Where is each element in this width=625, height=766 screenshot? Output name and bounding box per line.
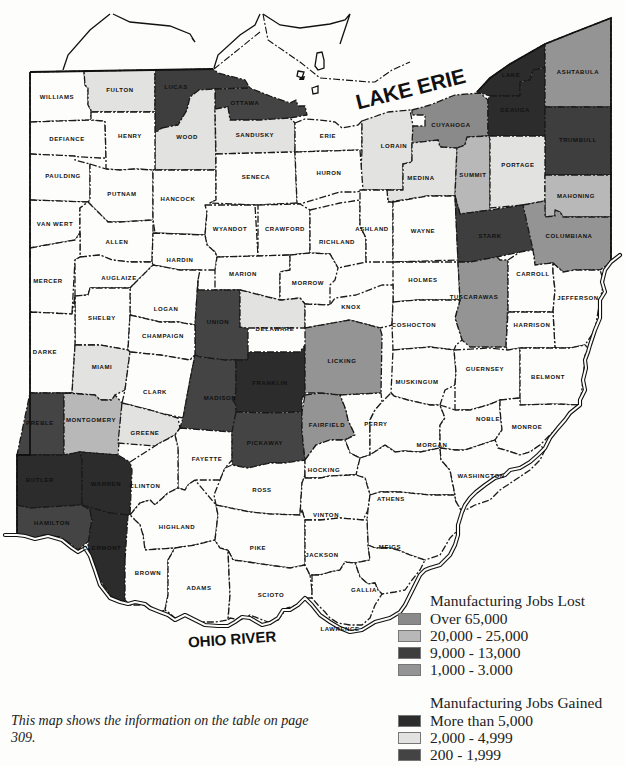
county-tuscarawas: [455, 257, 508, 347]
county-label-henry: HENRY: [118, 133, 142, 139]
county-label-pickaway: PICKAWAY: [247, 440, 283, 446]
county-label-wayne: WAYNE: [411, 228, 435, 234]
county-montgomery: [64, 393, 122, 455]
county-adams: [165, 540, 230, 622]
county-label-vinton: VINTON: [313, 512, 339, 518]
county-label-holmes: HOLMES: [408, 277, 437, 283]
county-label-stark: STARK: [478, 233, 501, 239]
legend-item: 20,000 - 25,000: [398, 627, 625, 644]
county-jefferson: [553, 263, 604, 348]
legend-label: More than 5,000: [430, 712, 533, 730]
county-label-trumbull: TRUMBULL: [559, 137, 597, 143]
county-label-lorain: LORAIN: [381, 143, 408, 149]
county-label-fulton: FULTON: [106, 87, 133, 93]
legend-label: 200 - 1,999: [430, 746, 501, 764]
county-label-athens: ATHENS: [377, 496, 405, 502]
legend-swatch: [398, 749, 421, 761]
county-label-lucas: LUCAS: [164, 84, 188, 90]
ohio-river-label: OHIO RIVER: [187, 627, 276, 650]
county-label-cuyahoga: CUYAHOGA: [431, 122, 470, 128]
legend-label: 9,000 - 13,000: [430, 644, 520, 662]
legend-item: 9,000 - 13,000: [398, 644, 625, 661]
county-label-brown: BROWN: [135, 570, 161, 576]
county-label-highland: HIGHLAND: [159, 524, 196, 530]
county-label-morgan: MORGAN: [417, 442, 448, 448]
county-label-miami: MIAMI: [92, 364, 113, 370]
legend-swatch: [398, 613, 421, 625]
county-label-knox: KNOX: [341, 304, 361, 310]
county-label-morrow: MORROW: [292, 280, 324, 286]
county-label-licking: LICKING: [328, 358, 357, 364]
county-portage: [490, 136, 545, 208]
county-label-seneca: SENECA: [242, 174, 271, 180]
county-label-franklin: FRANKLIN: [252, 380, 287, 386]
county-label-summit: SUMMIT: [459, 172, 486, 178]
legend-gained-title: Manufacturing Jobs Gained: [430, 694, 625, 712]
county-label-darke: DARKE: [33, 349, 57, 355]
county-label-belmont: BELMONT: [531, 374, 565, 380]
county-label-madison: MADISON: [204, 395, 237, 401]
legend-item: Over 65,000: [398, 610, 625, 627]
legend-item: 1,000 - 3.000: [398, 661, 625, 678]
legend-item: More than 5,000: [398, 712, 625, 729]
county-label-clermont: CLERMONT: [83, 545, 122, 551]
county-label-geauga: GEAUGA: [500, 107, 530, 113]
legend-swatch: [398, 630, 421, 642]
county-miami: [72, 345, 130, 400]
county-label-noble: NOBLE: [476, 416, 500, 422]
county-label-jefferson: JEFFERSON: [557, 295, 598, 301]
county-label-hamilton: HAMILTON: [34, 520, 70, 526]
county-label-shelby: SHELBY: [88, 315, 116, 321]
county-label-hardin: HARDIN: [167, 257, 194, 263]
county-label-clinton: CLINTON: [130, 483, 161, 489]
county-label-adams: ADAMS: [187, 585, 212, 591]
legend-label: 20,000 - 25,000: [430, 627, 528, 645]
county-label-paulding: PAULDING: [45, 173, 81, 179]
county-label-defiance: DEFIANCE: [49, 136, 84, 142]
county-label-huron: HURON: [317, 170, 342, 176]
county-label-portage: PORTAGE: [501, 162, 534, 168]
legend-label: Over 65,000: [430, 610, 508, 628]
county-label-monroe: MONROE: [512, 424, 543, 430]
legend-lost-title: Manufacturing Jobs Lost: [430, 592, 625, 610]
legend-swatch: [398, 647, 421, 659]
county-label-gallia: GALLIA: [351, 587, 377, 593]
county-label-richland: RICHLAND: [319, 239, 355, 245]
county-label-allen: ALLEN: [106, 239, 129, 245]
county-label-union: UNION: [207, 319, 229, 325]
legend-label: 1,000 - 3.000: [430, 661, 513, 679]
county-label-ottawa: OTTAWA: [231, 100, 260, 106]
county-label-wyandot: WYANDOT: [213, 226, 248, 232]
county-label-coshocton: COSHOCTON: [392, 322, 436, 328]
county-label-mahoning: MAHONING: [557, 193, 595, 199]
county-label-preble: PREBLE: [26, 420, 54, 426]
county-label-harrison: HARRISON: [514, 322, 551, 328]
county-label-clark: CLARK: [143, 389, 167, 395]
county-label-ashland: ASHLAND: [355, 226, 389, 232]
county-label-wood: WOOD: [176, 134, 198, 140]
county-label-putnam: PUTNAM: [107, 191, 136, 197]
map-legend: Manufacturing Jobs Lost Over 65,000 20,0…: [398, 592, 625, 763]
county-label-ross: ROSS: [252, 487, 271, 493]
county-label-carroll: CARROLL: [516, 271, 550, 277]
county-huron: [295, 150, 363, 204]
county-harrison: [506, 312, 555, 350]
county-label-perry: PERRY: [364, 421, 387, 427]
county-label-sandusky: SANDUSKY: [236, 132, 274, 138]
legend-item: 2,000 - 4,999: [398, 729, 625, 746]
county-label-crawford: CRAWFORD: [265, 226, 305, 232]
county-label-guernsey: GUERNSEY: [466, 366, 504, 372]
county-label-marion: MARION: [229, 271, 257, 277]
county-label-butler: BUTLER: [26, 477, 54, 483]
county-label-champaign: CHAMPAIGN: [142, 333, 184, 339]
county-label-logan: LOGAN: [154, 306, 179, 312]
county-label-van-wert: VAN WERT: [37, 221, 73, 227]
county-label-delaware: DELAWARE: [256, 326, 295, 332]
county-label-warren: WARREN: [91, 481, 121, 487]
county-label-lake: LAKE: [502, 72, 521, 78]
legend-item: 200 - 1,999: [398, 746, 625, 763]
county-label-jackson: JACKSON: [305, 552, 339, 558]
county-label-meigs: MEIGS: [379, 544, 401, 550]
county-label-fairfield: FAIRFIELD: [309, 422, 345, 428]
county-label-williams: WILLIAMS: [40, 94, 74, 100]
